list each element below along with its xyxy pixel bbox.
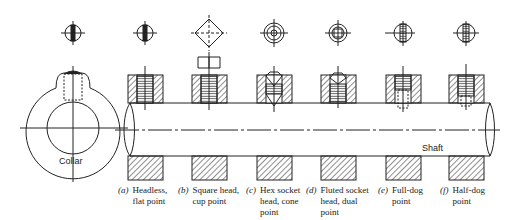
top-view-f [453, 21, 479, 46]
collar-label: Collar [59, 156, 83, 166]
top-view-b-square-head [191, 15, 227, 51]
screw-d-section [321, 66, 356, 180]
screw-f-section [449, 64, 484, 180]
caption-b: (b)Square head,cup point [178, 185, 239, 207]
caption-f: (f)Half-dogpoint [440, 185, 485, 207]
screw-b-section [192, 52, 227, 180]
screw-e-section [386, 66, 421, 180]
caption-d: (d)Fluted sockethead, dualpoint [306, 185, 369, 218]
top-view-a [133, 21, 157, 45]
caption-e: (e)Full-dogpoint [378, 185, 423, 207]
screw-a-section [128, 66, 163, 180]
caption-c: (c)Hex sockethead, conepoint [246, 185, 300, 218]
top-view-collar-screw [61, 21, 85, 45]
screw-c-section [257, 66, 292, 180]
top-view-c-hex-socket [260, 19, 288, 47]
top-view-d-fluted-socket [325, 20, 351, 46]
shaft-label: Shaft [422, 143, 443, 153]
top-view-e [385, 21, 415, 46]
caption-a: (a)Headless,flat point [118, 185, 167, 207]
